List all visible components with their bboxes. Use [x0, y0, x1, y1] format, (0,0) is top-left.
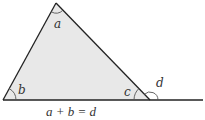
equation-caption: a + b = d [46, 104, 97, 119]
angle-label-c: c [124, 85, 131, 99]
angle-label-d: d [156, 76, 164, 90]
angle-label-b: b [18, 83, 26, 97]
exterior-angle-diagram: a b c d a + b = d [0, 0, 205, 120]
angle-label-a: a [54, 17, 61, 31]
